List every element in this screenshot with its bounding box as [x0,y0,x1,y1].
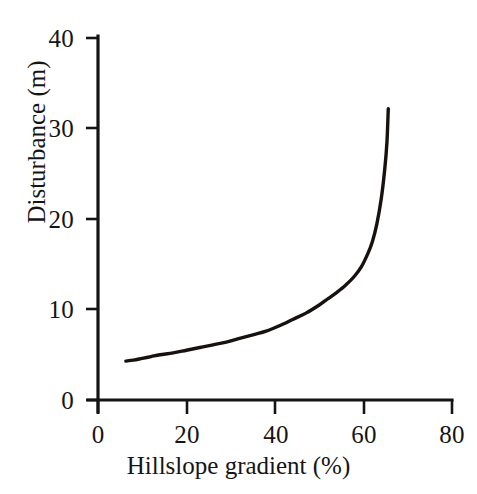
x-axis-title: Hillslope gradient (%) [0,452,477,480]
x-tick-label-80: 80 [439,422,464,447]
y-tick-label-0: 0 [22,388,74,413]
x-tick-label-0: 0 [92,422,105,447]
chart-figure: 40 30 20 10 0 0 20 40 60 80 Hillslope gr… [0,0,477,494]
x-tick-label-20: 20 [174,422,199,447]
y-tick-label-10: 10 [22,297,74,322]
x-tick-label-40: 40 [263,422,288,447]
data-curve-line [126,109,388,361]
x-tick-label-60: 60 [351,422,376,447]
y-axis-title: Disturbance (m) [23,12,51,272]
plot-area [0,0,477,494]
